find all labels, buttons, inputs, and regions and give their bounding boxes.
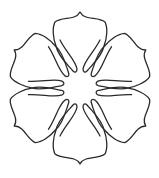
- petals-group: [1, 12, 159, 164]
- petal-top: [53, 12, 107, 72]
- flower-outline-figure: [0, 0, 159, 178]
- petal-bottom: [53, 104, 107, 164]
- flower-icon: [0, 0, 159, 178]
